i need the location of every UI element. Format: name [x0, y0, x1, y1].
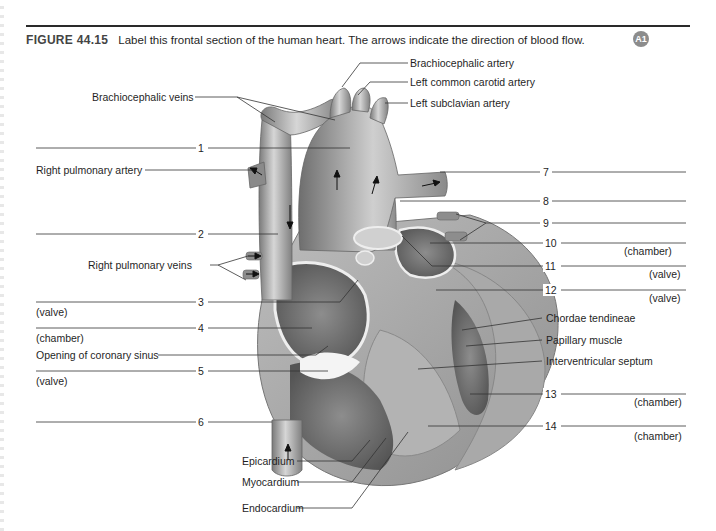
blank-number-6: 6: [196, 416, 206, 428]
blank-number-4: 4: [196, 322, 206, 334]
label-right-pulmonary-artery: Right pulmonary artery: [36, 164, 142, 176]
blank-number-12: 12: [543, 284, 559, 296]
blank-hint-12: (valve): [649, 292, 681, 304]
blank-hint-11: (valve): [649, 268, 681, 280]
label-endocardium: Endocardium: [242, 502, 304, 514]
label-epicardium: Epicardium: [242, 455, 295, 467]
label-myocardium: Myocardium: [242, 476, 299, 488]
label-left-common-carotid-artery: Left common carotid artery: [410, 76, 535, 88]
label-chordae-tendineae: Chordae tendineae: [546, 312, 635, 324]
label-brachiocephalic-veins: Brachiocephalic veins: [92, 91, 194, 103]
label-left-subclavian-artery: Left subclavian artery: [410, 97, 510, 109]
blank-number-9: 9: [541, 217, 551, 229]
blank-number-1: 1: [196, 142, 206, 154]
blank-number-10: 10: [543, 237, 559, 249]
blank-number-11: 11: [543, 260, 558, 272]
blank-number-14: 14: [543, 420, 559, 432]
label-brachiocephalic-artery: Brachiocephalic artery: [410, 57, 514, 69]
blank-hint-4: (chamber): [36, 332, 84, 344]
blank-hint-10: (chamber): [624, 245, 672, 257]
blank-number-3: 3: [196, 296, 206, 308]
blank-hint-14: (chamber): [634, 430, 682, 442]
blank-number-2: 2: [196, 228, 206, 240]
blank-number-13: 13: [543, 388, 559, 400]
blank-hint-5: (valve): [36, 375, 68, 387]
blank-number-8: 8: [541, 195, 551, 207]
label-opening-of-coronary-sinus: Opening of coronary sinus: [36, 349, 159, 361]
blank-number-5: 5: [196, 365, 206, 377]
label-interventricular-septum: Interventricular septum: [546, 355, 653, 367]
blank-hint-3: (valve): [36, 306, 68, 318]
blank-hint-13: (chamber): [634, 396, 682, 408]
blank-number-7: 7: [541, 166, 551, 178]
label-right-pulmonary-veins: Right pulmonary veins: [88, 259, 192, 271]
label-papillary-muscle: Papillary muscle: [546, 334, 622, 346]
